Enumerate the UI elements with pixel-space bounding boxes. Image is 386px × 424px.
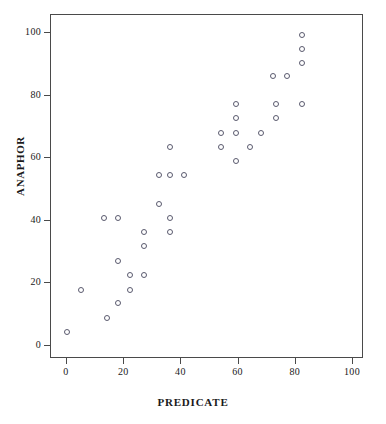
data-point bbox=[299, 60, 305, 66]
data-point bbox=[299, 32, 305, 38]
data-point bbox=[270, 73, 276, 79]
data-point bbox=[273, 115, 279, 121]
data-point bbox=[233, 130, 239, 136]
y-axis-tick bbox=[44, 220, 50, 221]
y-axis-tick-label: 100 bbox=[1, 27, 41, 37]
y-axis-tick bbox=[44, 282, 50, 283]
data-point bbox=[78, 287, 84, 293]
data-point bbox=[115, 258, 121, 264]
x-axis-tick bbox=[352, 358, 353, 364]
data-points-layer bbox=[51, 15, 362, 357]
x-axis-tick bbox=[180, 358, 181, 364]
y-axis-tick bbox=[44, 32, 50, 33]
data-point bbox=[181, 172, 187, 178]
data-point bbox=[141, 272, 147, 278]
data-point bbox=[115, 215, 121, 221]
x-axis-title: PREDICATE bbox=[0, 396, 386, 408]
plot-frame bbox=[50, 14, 363, 358]
x-axis-tick-label: 0 bbox=[46, 367, 86, 377]
x-axis-tick bbox=[123, 358, 124, 364]
data-point bbox=[167, 215, 173, 221]
data-point bbox=[167, 172, 173, 178]
x-axis-tick-label: 40 bbox=[160, 367, 200, 377]
data-point bbox=[299, 101, 305, 107]
data-point bbox=[64, 329, 70, 335]
y-axis-tick bbox=[44, 157, 50, 158]
data-point bbox=[233, 101, 239, 107]
data-point bbox=[167, 144, 173, 150]
data-point bbox=[167, 229, 173, 235]
data-point bbox=[233, 158, 239, 164]
x-axis-tick-label: 80 bbox=[275, 367, 315, 377]
y-axis-tick bbox=[44, 95, 50, 96]
data-point bbox=[218, 130, 224, 136]
y-axis-title: ANAPHOR bbox=[14, 91, 26, 241]
data-point bbox=[218, 144, 224, 150]
data-point bbox=[101, 215, 107, 221]
x-axis-tick bbox=[66, 358, 67, 364]
data-point bbox=[127, 272, 133, 278]
scatter-plot-figure: 020406080100 020406080100 ANAPHOR PREDIC… bbox=[0, 0, 386, 424]
x-axis-tick bbox=[238, 358, 239, 364]
x-axis-tick bbox=[295, 358, 296, 364]
data-point bbox=[273, 101, 279, 107]
data-point bbox=[247, 144, 253, 150]
data-point bbox=[284, 73, 290, 79]
y-axis-tick bbox=[44, 345, 50, 346]
data-point bbox=[127, 287, 133, 293]
data-point bbox=[141, 229, 147, 235]
x-axis-tick-label: 60 bbox=[218, 367, 258, 377]
data-point bbox=[156, 172, 162, 178]
data-point bbox=[258, 130, 264, 136]
data-point bbox=[233, 115, 239, 121]
x-axis-tick-label: 20 bbox=[103, 367, 143, 377]
data-point bbox=[156, 201, 162, 207]
data-point bbox=[115, 300, 121, 306]
y-axis-tick-label: 20 bbox=[1, 277, 41, 287]
x-axis-tick-label: 100 bbox=[332, 367, 372, 377]
data-point bbox=[104, 315, 110, 321]
data-point bbox=[141, 243, 147, 249]
data-point bbox=[299, 46, 305, 52]
y-axis-tick-label: 0 bbox=[1, 340, 41, 350]
